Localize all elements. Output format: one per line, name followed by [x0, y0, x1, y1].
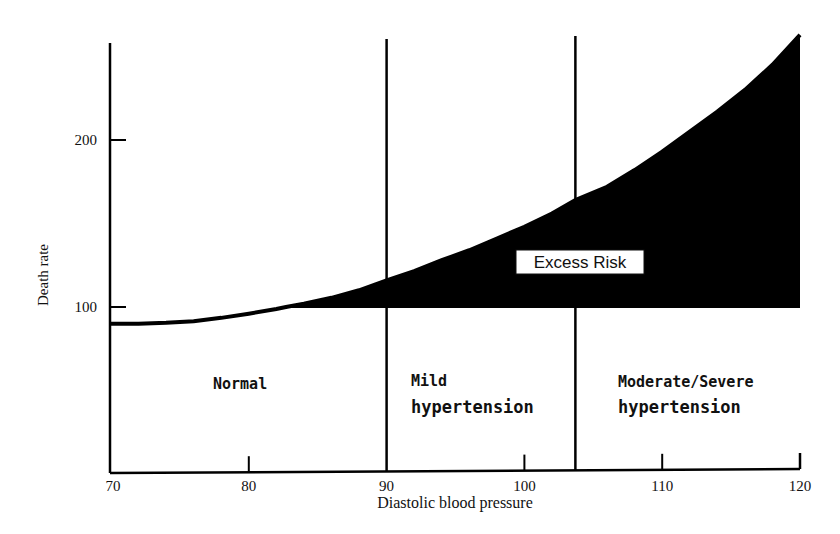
- region-label-moderate-line1: Moderate/Severe: [618, 373, 753, 391]
- region-label-moderate-line2: hypertension: [618, 397, 741, 417]
- chart: 708090100110120100200 Death rate Diastol…: [0, 0, 840, 534]
- excess-risk-label-text: Excess Risk: [534, 253, 627, 272]
- x-tick-label-80: 80: [241, 478, 256, 494]
- excess-risk-label: Excess Risk: [516, 250, 644, 274]
- x-axis: [110, 469, 800, 473]
- region-label-mild-line1: Mild: [411, 372, 447, 390]
- x-tick-label-120: 120: [789, 478, 812, 494]
- x-tick-label-110: 110: [651, 478, 673, 494]
- y-tick-label-100: 100: [75, 299, 98, 315]
- region-label-mild-line2: hypertension: [411, 397, 534, 417]
- x-axis-label: Diastolic blood pressure: [377, 494, 533, 512]
- x-tick-label-100: 100: [513, 478, 536, 494]
- x-tick-label-90: 90: [379, 478, 394, 494]
- y-tick-label-200: 200: [75, 132, 98, 148]
- y-axis-label: Death rate: [35, 244, 51, 306]
- region-label-normal: Normal: [213, 375, 267, 393]
- x-tick-label-70: 70: [106, 478, 121, 494]
